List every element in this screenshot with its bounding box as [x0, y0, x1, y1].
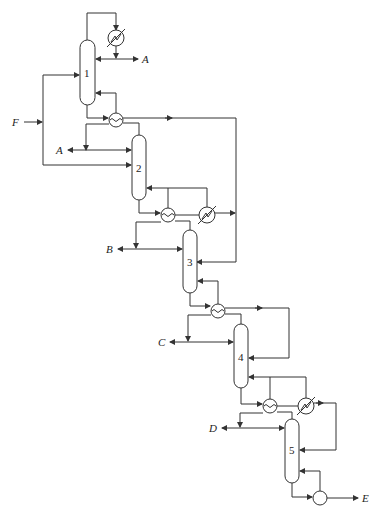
col3-reboil-return — [198, 281, 218, 304]
col5-top-line — [277, 412, 292, 419]
product-B-label: B — [106, 243, 113, 255]
product-A2-label: A — [55, 144, 63, 156]
product-A1-label: A — [141, 53, 149, 65]
col2-reboil-return — [147, 188, 168, 208]
col1-reboil-return — [96, 93, 116, 113]
col2-bottoms-line — [139, 200, 160, 213]
heater4-bypass — [270, 377, 306, 398]
column-2-label: 2 — [136, 162, 142, 174]
col2-top-line — [123, 123, 139, 135]
process-flow-diagram: 1 A F 2 A — [0, 0, 385, 519]
column-3-label: 3 — [187, 256, 193, 268]
col4-bottoms-line — [241, 388, 262, 404]
column-5-label: 5 — [289, 444, 295, 456]
product-D-label: D — [208, 422, 217, 434]
col1-bottoms-line — [87, 105, 108, 118]
heater-icon — [198, 206, 216, 224]
col5-bottoms-line — [292, 483, 312, 497]
heater-icon — [297, 397, 315, 415]
col3-bottoms-line — [190, 293, 210, 306]
column-4-label: 4 — [238, 351, 244, 363]
product-C-label: C — [158, 336, 166, 348]
col4-reboil-return — [249, 377, 270, 399]
heat-exchanger-icon — [109, 113, 123, 127]
col4-top-line — [225, 314, 241, 324]
heater-bypass — [168, 188, 207, 207]
heat-exchanger-icon — [211, 304, 225, 318]
condenser-icon — [107, 29, 125, 47]
column-1-label: 1 — [84, 67, 90, 79]
feed-label: F — [11, 116, 19, 128]
product-E-label: E — [361, 492, 369, 504]
heat-exchanger-icon — [161, 208, 175, 222]
heat-exchanger-icon — [263, 399, 277, 413]
col3-top-line — [175, 221, 190, 230]
col5-reboil-return — [300, 471, 320, 491]
reboiler-icon — [313, 491, 327, 505]
